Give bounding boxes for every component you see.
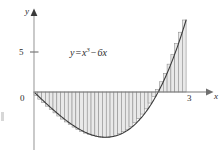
riemann-rectangle — [102, 92, 106, 137]
y-tick-label-5: 5 — [19, 48, 24, 57]
riemann-rectangle — [57, 92, 61, 116]
x-axis-label: x — [214, 92, 218, 101]
riemann-rectangle — [144, 92, 148, 109]
riemann-rectangle — [99, 92, 103, 137]
riemann-rectangle — [64, 92, 68, 122]
x-axis-arrowhead — [206, 88, 214, 95]
riemann-rectangle — [148, 92, 152, 103]
riemann-rectangle — [76, 92, 80, 129]
riemann-rectangle — [83, 92, 87, 133]
riemann-rectangle — [121, 92, 125, 132]
riemann-rectangles — [34, 20, 186, 137]
riemann-rectangle — [118, 92, 122, 134]
riemann-rectangle — [129, 92, 133, 126]
riemann-rectangle — [114, 92, 118, 135]
page-edge-artifact — [1, 112, 4, 121]
x-tick-label-0: 0 — [20, 94, 25, 103]
riemann-rectangle — [106, 92, 110, 137]
riemann-sum-figure: y x 5 0 3 y=x3−6x — [0, 0, 224, 151]
riemann-rectangle — [152, 92, 156, 97]
equation-term: 6x — [97, 47, 106, 58]
equation-equals: = — [74, 47, 82, 58]
y-axis-label: y — [25, 7, 29, 16]
riemann-rectangle — [95, 92, 99, 137]
riemann-rectangle — [80, 92, 84, 131]
riemann-rectangle — [91, 92, 95, 136]
riemann-rectangle — [61, 92, 65, 119]
riemann-rectangle — [72, 92, 76, 127]
riemann-rectangle — [133, 92, 137, 123]
riemann-rectangle — [87, 92, 91, 135]
riemann-rectangle — [68, 92, 72, 125]
riemann-rectangle — [125, 92, 129, 129]
y-axis-arrowhead — [31, 9, 38, 17]
riemann-rectangle — [110, 92, 114, 136]
x-tick-label-3: 3 — [187, 94, 192, 103]
equation-annotation: y=x3−6x — [70, 48, 107, 58]
riemann-rectangle — [163, 73, 167, 92]
riemann-rectangle — [175, 44, 179, 92]
plot-canvas — [0, 0, 224, 151]
riemann-rectangle — [137, 92, 141, 119]
riemann-rectangle — [140, 92, 144, 114]
